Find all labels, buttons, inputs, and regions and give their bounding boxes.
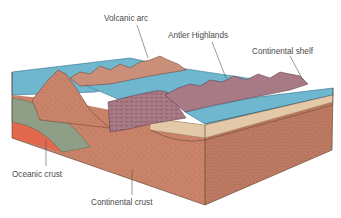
svg-text:Continental crust: Continental crust <box>91 198 153 207</box>
svg-text:Continental shelf: Continental shelf <box>252 47 314 56</box>
svg-text:Volcanic arc: Volcanic arc <box>104 14 148 23</box>
svg-text:Oceanic crust: Oceanic crust <box>12 170 63 179</box>
svg-text:Antler Highlands: Antler Highlands <box>168 31 228 40</box>
label-volcanic-arc: Volcanic arc <box>104 14 148 58</box>
block-diagram: Volcanic arc Antler Highlands Continenta… <box>0 0 341 218</box>
